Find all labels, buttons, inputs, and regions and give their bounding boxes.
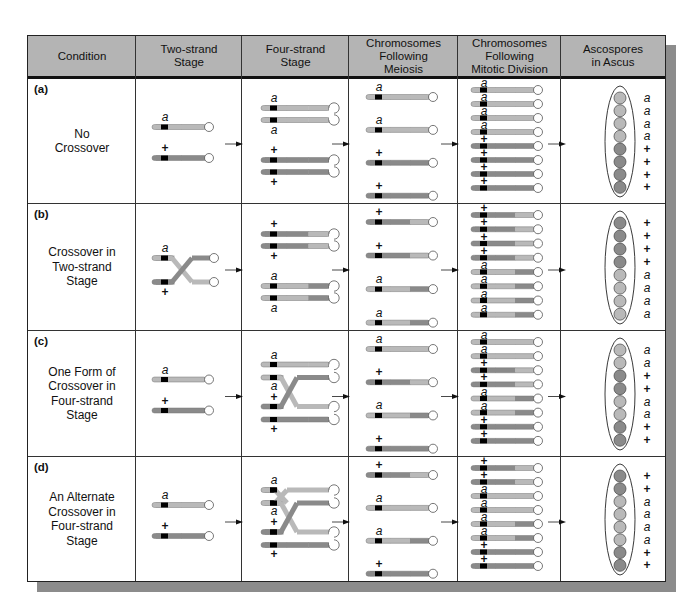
allele-label: +	[480, 230, 487, 244]
ascospore	[614, 308, 626, 320]
allele-label: a	[481, 287, 488, 301]
chromosome-segment	[410, 220, 431, 225]
allele-label: +	[643, 229, 650, 243]
chromosome-segment	[515, 480, 536, 485]
centromere	[534, 156, 543, 165]
gene-marker	[375, 95, 382, 100]
chromosome-segment	[410, 571, 431, 576]
chromosome-segment	[515, 213, 536, 218]
arrow-icon	[559, 268, 566, 273]
ascospore	[614, 496, 626, 508]
centromere	[205, 123, 214, 132]
chromosome-segment	[181, 534, 207, 539]
allele-label: a	[644, 307, 651, 321]
ascospore	[614, 383, 626, 395]
gene-marker	[270, 362, 277, 367]
ascospore	[614, 217, 626, 229]
chromosome-segment	[181, 503, 207, 508]
centromere	[534, 520, 543, 529]
arrow-icon	[559, 520, 566, 525]
centromere	[534, 492, 543, 501]
condition-text: No Crossover	[28, 79, 136, 203]
chromosome-segment	[410, 253, 431, 258]
allele-label: +	[480, 132, 487, 146]
ascospore	[614, 92, 626, 104]
chromosome-segment	[410, 380, 431, 385]
allele-label: a	[376, 113, 383, 127]
allele-label: +	[480, 356, 487, 370]
allele-label: +	[643, 180, 650, 194]
chromosome-segment	[156, 534, 182, 539]
chromosome-segment	[410, 538, 431, 543]
gene-marker	[270, 296, 277, 301]
header-condition: Condition	[28, 36, 136, 76]
ascospore	[614, 357, 626, 369]
chromosome-segment	[495, 284, 516, 289]
chromosome-segment	[308, 543, 330, 548]
allele-label: +	[480, 457, 487, 468]
gene-marker	[161, 256, 168, 261]
centromere	[534, 282, 543, 291]
chromosome-segment	[515, 298, 536, 303]
centromere	[534, 211, 543, 220]
ascospore	[614, 547, 626, 559]
chromosome-segment	[495, 130, 516, 135]
chromosome-segment	[390, 95, 411, 100]
centromere	[534, 239, 543, 248]
chromosome-segment	[515, 438, 536, 443]
gene-marker	[161, 377, 168, 382]
ascospore	[614, 370, 626, 382]
allele-label: +	[643, 242, 650, 256]
chromosome-segment	[390, 380, 411, 385]
chromosome-segment	[515, 536, 536, 541]
allele-label: +	[270, 175, 277, 189]
centromere	[205, 406, 214, 415]
ascospore	[614, 559, 626, 571]
chromosome-segment	[308, 296, 330, 301]
chromosome-segment	[390, 320, 411, 325]
centromere	[534, 310, 543, 319]
chromosome-segment	[287, 244, 309, 249]
chromosome-segment	[495, 340, 516, 345]
allele-label: a	[162, 363, 169, 377]
chromosome-segment	[287, 118, 309, 123]
chromosome-segment	[287, 362, 309, 367]
chromosome-segment	[515, 116, 536, 121]
chromosome-segment	[410, 287, 431, 292]
centromere	[534, 380, 543, 389]
allele-label: a	[481, 79, 488, 90]
chromosome-segment	[287, 106, 309, 111]
ascospore	[614, 295, 626, 307]
chromosome-segment	[515, 241, 536, 246]
gene-marker	[375, 538, 382, 543]
centromere	[534, 394, 543, 403]
chromosome-segment	[495, 102, 516, 107]
arrow-icon	[343, 268, 350, 273]
gene-marker	[375, 473, 382, 478]
header-four-strand: Four-strand Stage	[242, 36, 349, 76]
allele-label: a	[376, 524, 383, 538]
allele-label: +	[480, 146, 487, 160]
chromosome-segment	[495, 88, 516, 93]
header-mitotic-division: Chromosomes Following Mitotic Division	[458, 36, 561, 76]
ascospore	[614, 434, 626, 446]
allele-label: +	[161, 519, 168, 533]
chromosome-segment	[390, 473, 411, 478]
chromosome-segment	[156, 503, 182, 508]
chromosome	[261, 106, 331, 111]
allele-label: +	[270, 422, 277, 436]
row-c-diagram: a+aa++a+a+aa++aa++aa++aa++	[136, 331, 666, 456]
allele-label: a	[271, 269, 278, 283]
allele-label: a	[481, 118, 488, 132]
allele-label: +	[643, 255, 650, 269]
allele-label: a	[644, 407, 651, 421]
centromere	[429, 218, 438, 227]
allele-label: a	[271, 123, 278, 137]
gene-marker	[270, 404, 277, 409]
centromere	[534, 366, 543, 375]
ascospore	[614, 156, 626, 168]
chromosome-segment	[390, 538, 411, 543]
arrow-icon	[236, 142, 243, 147]
ascospore	[614, 470, 626, 482]
allele-label: +	[375, 557, 382, 571]
